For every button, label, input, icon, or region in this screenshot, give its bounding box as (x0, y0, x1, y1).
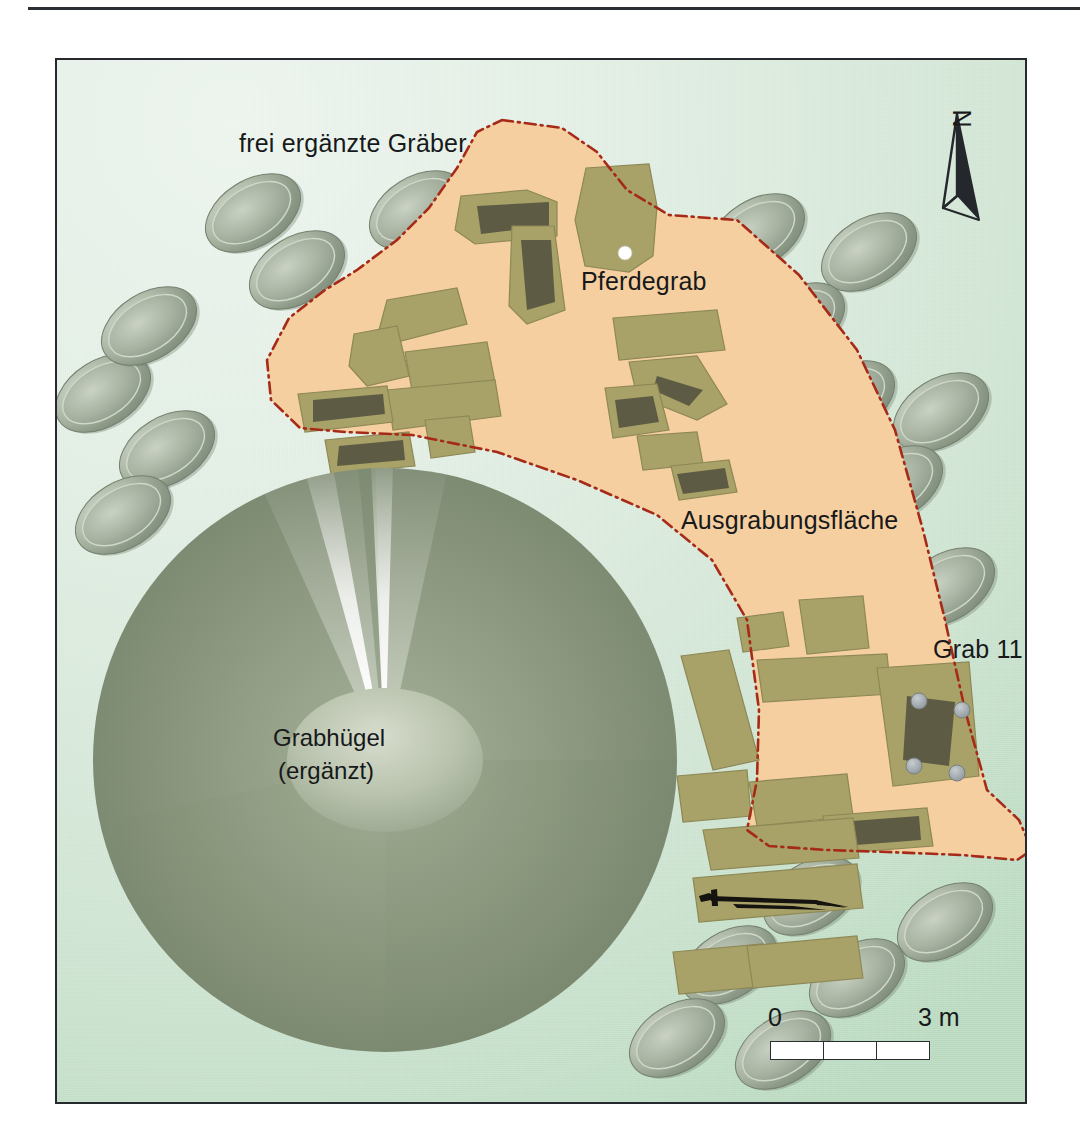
site-plan-frame: frei ergänzte Gräber Pferdegrab Ausgrabu… (55, 58, 1027, 1104)
grave-chamber (903, 696, 955, 766)
figure-page: frei ergänzte Gräber Pferdegrab Ausgrabu… (0, 0, 1080, 1142)
post-hole (949, 765, 965, 781)
horse-grave-marker-dot[interactable] (618, 246, 632, 260)
excavated-grave[interactable] (325, 432, 415, 474)
north-arrow-icon (943, 114, 979, 220)
scale-segment (823, 1042, 876, 1059)
scale-segment (771, 1042, 823, 1059)
excavated-grave[interactable] (677, 770, 751, 822)
excavated-grave[interactable] (877, 662, 979, 786)
top-divider-rule (28, 7, 1080, 10)
north-letter: N (947, 109, 976, 127)
scale-bar (770, 1041, 930, 1060)
label-reconstructed-graves: frei ergänzte Gräber (239, 129, 467, 158)
scale-end-label: 3 m (918, 1003, 960, 1032)
post-hole (954, 702, 970, 718)
excavated-grave[interactable] (757, 654, 891, 702)
label-excavation-area: Ausgrabungsfläche (681, 506, 898, 535)
label-burial-mound-line1: Grabhügel (273, 724, 385, 752)
excavated-grave[interactable] (605, 384, 669, 438)
excavated-grave[interactable] (737, 612, 789, 652)
label-burial-mound-line2: (ergänzt) (278, 757, 374, 785)
label-grave-11: Grab 11 (933, 635, 1023, 664)
excavated-grave[interactable] (425, 416, 475, 458)
excavated-grave[interactable] (681, 650, 759, 770)
scale-start-label: 0 (768, 1003, 782, 1032)
burial-mound[interactable] (93, 456, 677, 1060)
scale-segment (876, 1042, 929, 1059)
post-hole (911, 693, 927, 709)
site-plan-drawing (57, 60, 1027, 1104)
post-hole (906, 758, 922, 774)
excavated-grave[interactable] (575, 164, 657, 272)
excavated-grave[interactable] (799, 596, 869, 654)
label-horse-grave: Pferdegrab (581, 267, 707, 296)
